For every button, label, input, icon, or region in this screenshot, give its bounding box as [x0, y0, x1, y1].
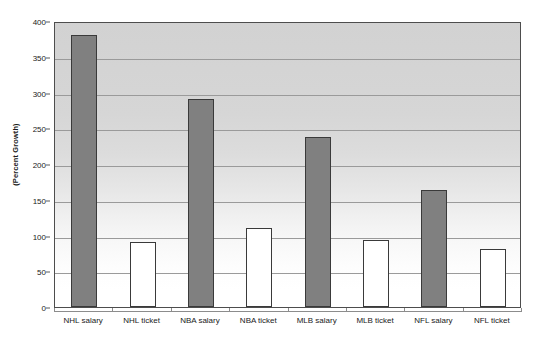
y-tick-label: 400: [33, 18, 46, 27]
x-tick-label: NBA ticket: [240, 316, 277, 325]
x-tick-label: NHL ticket: [123, 316, 160, 325]
bars: [55, 23, 520, 307]
y-tick-label: 50: [37, 268, 46, 277]
y-tick-label: 300: [33, 89, 46, 98]
y-tick-mark: [46, 200, 50, 201]
y-tick-label: 150: [33, 196, 46, 205]
y-tick-mark: [46, 236, 50, 237]
bar-nfl-ticket: [480, 249, 506, 307]
bar-nfl-salary: [421, 190, 447, 307]
plot-area: [54, 22, 521, 308]
bar-nba-ticket: [246, 228, 272, 307]
y-tick-mark: [46, 272, 50, 273]
y-tick-mark: [46, 93, 50, 94]
y-tick-mark: [46, 22, 50, 23]
bar-nhl-ticket: [130, 242, 156, 307]
y-tick-label: 100: [33, 232, 46, 241]
x-tick-label: NFL ticket: [474, 316, 510, 325]
x-tick-mark: [288, 308, 289, 312]
x-tick-label: NHL salary: [64, 316, 103, 325]
bar-chart: (Percent Growth) 05010015020025030035040…: [0, 0, 542, 343]
x-tick-label: NFL salary: [414, 316, 452, 325]
x-tick-label: MLB ticket: [356, 316, 393, 325]
x-tick-mark: [171, 308, 172, 312]
bar-nba-salary: [188, 99, 214, 307]
bar-nhl-salary: [71, 35, 97, 307]
y-axis-title-label: (Percent Growth): [11, 123, 20, 185]
y-tick-mark: [46, 57, 50, 58]
bar-mlb-salary: [305, 137, 331, 307]
x-tick-mark: [346, 308, 347, 312]
x-tick-mark: [404, 308, 405, 312]
x-tick-label: NBA salary: [180, 316, 220, 325]
x-tick-mark: [54, 308, 55, 312]
bar-mlb-ticket: [363, 240, 389, 307]
y-axis-title: (Percent Growth): [4, 0, 26, 308]
x-tick-mark: [112, 308, 113, 312]
y-tick-mark: [46, 165, 50, 166]
x-tick-mark: [463, 308, 464, 312]
x-tick-mark: [229, 308, 230, 312]
y-axis-tick-labels: 050100150200250300350400: [24, 0, 50, 343]
y-tick-label: 350: [33, 53, 46, 62]
y-tick-mark: [46, 129, 50, 130]
y-tick-label: 200: [33, 161, 46, 170]
x-tick-label: MLB salary: [297, 316, 337, 325]
x-tick-mark: [521, 308, 522, 312]
y-tick-label: 250: [33, 125, 46, 134]
y-tick-mark: [46, 308, 50, 309]
